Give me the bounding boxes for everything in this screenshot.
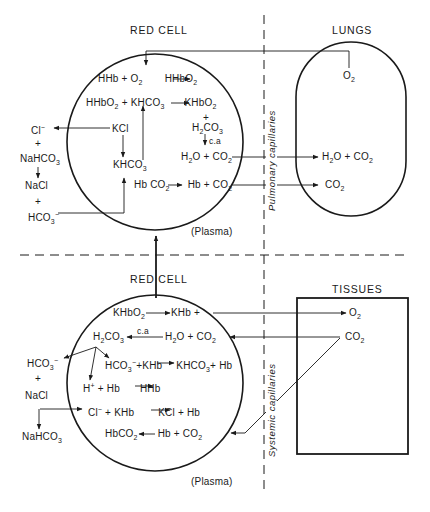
lungs-label: LUNGS [332,24,372,36]
bottom-h2co3: H2CO3 [93,331,124,347]
top-plus-b: + [35,196,41,208]
top-hco3: HCO3− [28,209,59,228]
bottom-eq-h-hb: H+ + HbHHb [83,380,161,395]
bottom-khbo2: KHbO2 [113,307,145,323]
top-h2o-co2: H2O + CO2 [181,151,232,167]
top-eq-hhb-o2: HHb + O2HHbO2 [98,73,197,89]
top-nacl: NaCl [25,180,48,192]
pulmonary-capillaries-label: Pulmonary capillaries [266,109,277,212]
top-eq-hbco2: Hb CO2Hb + CO2 [134,179,232,195]
bottom-plasma-label: (Plasma) [191,476,233,488]
top-cl: Cl− [31,122,45,137]
bottom-ca-label: c.a [137,325,149,337]
top-khco3: KHCO3 [113,159,147,175]
top-eq-hhbo2-khco3: HHbO2 + KHCO3KHbO2 [86,97,217,113]
top-plus-a: + [35,138,41,150]
lungs-h2o-co2: H2O + CO2 [322,151,373,167]
bottom-plus: + [35,373,41,385]
bottom-hco3: HCO3− [27,355,58,374]
top-ca-label: c.a [209,135,221,147]
bottom-eq-hbco2: HbCO2Hb + CO2 [105,428,202,444]
top-nahco3: NaHCO3 [20,153,60,169]
bottom-h2o-co2: H2O + CO2 [165,331,216,347]
top-red-cell-label: RED CELL [130,24,188,36]
tissues-o2: O2 [349,307,361,323]
bottom-red-cell-label: RED CELL [130,273,188,285]
diagram-lines [0,0,430,512]
tissues-co2: CO2 [345,331,365,347]
tissues-label: TISSUES [332,283,383,295]
top-kcl: KCl [112,123,129,135]
lungs-capsule [296,42,406,216]
bottom-eq-hco3-khb: HCO3−+KHbKHCO3+ Hb [105,357,232,376]
bottom-eq-cl-khb: Cl− + KHbKCl + Hb [88,404,200,419]
lungs-o2: O2 [343,70,355,86]
bottom-nacl: NaCl [25,390,48,402]
lungs-co2: CO2 [325,179,345,195]
co2-transport-diagram: RED CELL LUNGS HHb + O2HHbO2 HHbO2 + KHC… [0,0,430,512]
systemic-capillaries-label: Systemic capillaries [266,363,277,458]
top-plasma-label: (Plasma) [191,226,233,238]
bottom-nahco3: NaHCO3 [22,431,62,447]
bottom-khb-plus: KHb + [171,307,200,319]
